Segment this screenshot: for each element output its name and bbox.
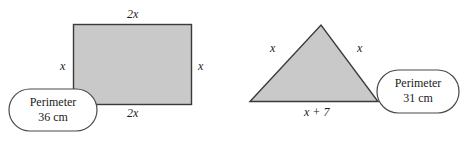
callout-rectangle-line2: 36 cm	[9, 110, 97, 125]
triangle-label-base: x + 7	[304, 106, 329, 118]
rectangle-label-top: 2x	[127, 8, 138, 20]
rectangle-label-left: x	[60, 60, 65, 72]
triangle-label-left-side: x	[270, 42, 275, 54]
callout-text-rectangle: Perimeter 36 cm	[9, 95, 97, 125]
geometry-figure: 2x 2x x x x x x + 7 Perimeter 36 cm Peri…	[0, 0, 463, 142]
callout-triangle-line1: Perimeter	[395, 76, 442, 90]
rectangle-label-bottom: 2x	[127, 107, 138, 119]
triangle-shape	[250, 25, 378, 102]
callout-text-triangle: Perimeter 31 cm	[377, 76, 459, 106]
triangle-label-right-side: x	[357, 42, 362, 54]
callout-rectangle-line1: Perimeter	[30, 95, 77, 109]
rectangle-shape	[74, 25, 192, 105]
callout-triangle-line2: 31 cm	[377, 91, 459, 106]
rectangle-label-right: x	[198, 60, 203, 72]
